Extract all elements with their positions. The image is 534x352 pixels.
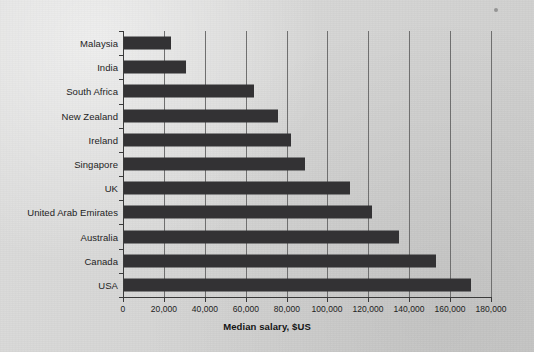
y-tick — [119, 55, 123, 56]
category-label: UK — [105, 183, 118, 194]
x-tick-label: 180,000 — [475, 304, 506, 314]
bar — [124, 254, 436, 267]
x-tick — [287, 298, 288, 302]
x-tick-label: 40,000 — [192, 304, 218, 314]
y-tick — [119, 104, 123, 105]
x-tick-label: 140,000 — [393, 304, 424, 314]
category-label: Malaysia — [80, 38, 118, 49]
bar — [124, 206, 372, 219]
bar — [124, 133, 291, 146]
x-tick — [368, 298, 369, 302]
category-label: South Africa — [66, 86, 118, 97]
category-label: Ireland — [89, 134, 118, 145]
x-tick-label: 0 — [121, 304, 126, 314]
category-label: Singapore — [74, 159, 118, 170]
y-tick — [119, 176, 123, 177]
x-tick-label: 100,000 — [311, 304, 342, 314]
x-axis-title: Median salary, $US — [0, 321, 534, 332]
y-tick — [119, 152, 123, 153]
category-label: Australia — [81, 231, 118, 242]
x-tick — [123, 298, 124, 302]
y-tick — [119, 273, 123, 274]
x-tick-label: 80,000 — [274, 304, 300, 314]
bar — [124, 85, 254, 98]
y-tick — [119, 31, 123, 32]
x-tick — [409, 298, 410, 302]
gridline — [491, 31, 492, 297]
category-label: India — [97, 62, 118, 73]
y-tick — [119, 249, 123, 250]
y-tick — [119, 200, 123, 201]
chart-page: MalaysiaIndiaSouth AfricaNew ZealandIrel… — [0, 0, 534, 352]
x-tick — [491, 298, 492, 302]
category-label: USA — [98, 279, 118, 290]
bar — [124, 182, 350, 195]
category-label: Canada — [84, 255, 118, 266]
bar — [124, 230, 399, 243]
x-tick — [164, 298, 165, 302]
y-tick — [119, 224, 123, 225]
x-tick — [450, 298, 451, 302]
bar — [124, 61, 186, 74]
y-tick — [119, 128, 123, 129]
x-axis-line — [123, 297, 492, 298]
x-tick — [246, 298, 247, 302]
gridline — [450, 31, 451, 297]
x-tick-label: 20,000 — [151, 304, 177, 314]
horizontal-bar-chart: MalaysiaIndiaSouth AfricaNew ZealandIrel… — [0, 0, 534, 352]
category-label: New Zealand — [61, 110, 118, 121]
category-label: United Arab Emirates — [27, 207, 118, 218]
bar — [124, 158, 305, 171]
bar — [124, 278, 471, 291]
x-tick — [327, 298, 328, 302]
x-tick-label: 60,000 — [233, 304, 259, 314]
x-tick-label: 120,000 — [352, 304, 383, 314]
bar — [124, 109, 278, 122]
y-tick — [119, 79, 123, 80]
x-tick-label: 160,000 — [434, 304, 465, 314]
x-tick — [205, 298, 206, 302]
bar — [124, 37, 171, 50]
